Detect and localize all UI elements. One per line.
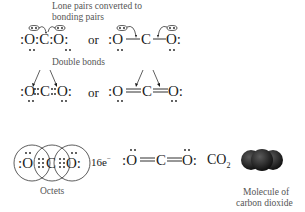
lewis-structure-final: :O C O:	[122, 145, 204, 175]
svg-text:C: C	[40, 83, 50, 99]
arrow-to-shared-pair-right-icon	[50, 70, 56, 84]
or-label-1: or	[88, 32, 99, 48]
electron-count: 16e−	[91, 155, 111, 168]
arrow-to-shared-pair-left-icon	[34, 70, 40, 84]
carbon-atom	[251, 149, 273, 171]
or-label-2: or	[88, 85, 99, 101]
svg-text::O:C:O:: :O:C:O:	[20, 31, 68, 47]
arrow-to-double-bond-left-icon	[137, 70, 143, 84]
svg-text:O:: O:	[182, 152, 197, 168]
svg-text:O:: O:	[57, 83, 72, 99]
svg-text:C: C	[142, 83, 152, 99]
molecule-caption-line1: Molecule of	[243, 187, 289, 198]
lone-pair-circle-right	[55, 26, 65, 31]
svg-text::O: :O	[108, 31, 123, 47]
dot-structure-lone-pairs: :O:C:O:	[10, 22, 90, 54]
octets-caption: Octets	[40, 186, 64, 197]
co2-space-filling-model	[240, 146, 284, 174]
svg-text:O:: O:	[168, 83, 183, 99]
svg-text:C: C	[156, 152, 166, 168]
dot-structure-double-bonds: :O C O:	[10, 68, 90, 104]
svg-text::O: :O	[122, 152, 137, 168]
svg-text::O: :O	[18, 155, 33, 171]
svg-text:C: C	[141, 31, 151, 47]
double-bonds-caption: Double bonds	[52, 57, 105, 68]
lone-pairs-caption-line1: Lone pairs converted to	[52, 1, 142, 12]
svg-text:C: C	[46, 155, 56, 171]
arrow-to-double-bond-right-icon	[153, 70, 159, 84]
svg-text:O:: O:	[66, 155, 81, 171]
molecule-caption-line2: carbon dioxide	[236, 198, 293, 209]
line-structure-double-bonds: :O C O:	[108, 68, 188, 104]
lone-pair-circle-left	[29, 26, 39, 31]
line-structure-single-bonds: :O C O:	[108, 22, 188, 54]
svg-text::O: :O	[20, 83, 35, 99]
svg-text:O:: O:	[166, 31, 181, 47]
octet-circles-diagram: :O C O:	[12, 143, 92, 183]
co2-formula: CO2	[207, 152, 230, 170]
curved-arrow-left-icon	[127, 26, 136, 36]
svg-text::O: :O	[108, 83, 123, 99]
